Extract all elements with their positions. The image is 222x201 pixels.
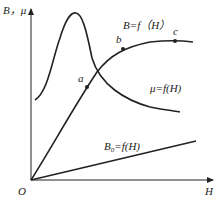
b-curve-label: B=f（H） — [123, 19, 170, 31]
origin-label: O — [18, 185, 26, 197]
point-a-label: a — [78, 72, 84, 84]
chart: B，μ H O B=f（H） μ=f(H) a b c B0=f(H) — [0, 0, 222, 201]
point-b-label: b — [116, 33, 122, 45]
point-c-label: c — [173, 25, 178, 37]
point-b-marker — [121, 47, 125, 51]
b0-curve-label: B0=f(H) — [104, 140, 140, 154]
point-a-marker — [85, 85, 89, 89]
point-c-marker — [173, 39, 177, 43]
x-axis-label: H — [204, 185, 214, 197]
mu-curve-label: μ=f(H) — [149, 82, 182, 95]
y-axis-label: B，μ — [3, 4, 27, 16]
